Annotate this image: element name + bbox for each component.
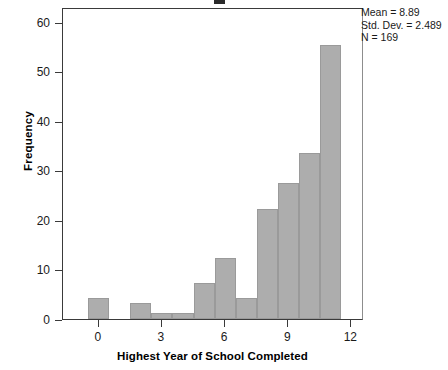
chart-root: Frequency 0102030405060 036912 Highest Y… [0,0,448,370]
x-axis-tick [98,320,99,327]
histogram-bar [236,298,257,319]
histogram-bar [172,313,193,319]
y-axis-tick [55,320,62,321]
y-axis-tick [55,23,62,24]
x-axis-tick [224,320,225,327]
y-axis-tick [55,270,62,271]
bars-layer [63,9,362,319]
plot-area [62,8,363,320]
cropped-title-sliver [214,0,225,4]
histogram-bar [215,258,236,319]
x-axis-tick [287,320,288,327]
stats-annotation: Mean = 8.89 Std. Dev. = 2.489 N = 169 [361,6,447,44]
x-axis-tick-label: 0 [78,330,118,344]
y-axis-tick [55,171,62,172]
histogram-bar [257,209,278,319]
histogram-bar [151,313,172,319]
histogram-bar [320,45,341,319]
x-axis-tick-label: 3 [141,330,181,344]
stat-std-dev: Std. Dev. = 2.489 [361,19,447,32]
x-axis-tick [350,320,351,327]
histogram-bar [194,283,215,319]
x-axis-tick-label: 12 [330,330,370,344]
y-axis-tick-label: 30 [10,165,50,177]
x-axis-tick-label: 6 [204,330,244,344]
histogram-bar [278,183,299,319]
y-axis-tick-label: 10 [10,264,50,276]
y-axis-tick [55,221,62,222]
x-axis-tick-label: 9 [267,330,307,344]
y-axis-tick-label: 40 [10,116,50,128]
y-axis-tick-label: 20 [10,215,50,227]
stat-n: N = 169 [361,31,447,44]
y-axis-tick [55,122,62,123]
histogram-bar [88,298,109,319]
histogram-bar [130,303,151,319]
y-axis-tick-label: 60 [10,17,50,29]
y-axis-tick-label: 0 [10,314,50,326]
y-axis-title: Frequency [22,81,34,201]
histogram-bar [299,153,320,319]
y-axis-tick-label: 50 [10,66,50,78]
x-axis-tick [161,320,162,327]
x-axis-title: Highest Year of School Completed [62,350,363,362]
y-axis-tick [55,72,62,73]
stat-mean: Mean = 8.89 [361,6,447,19]
